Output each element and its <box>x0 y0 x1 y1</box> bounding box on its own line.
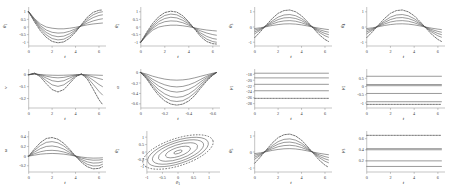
plot-canvas-p32: -1-0.500.5110.50-0.5-1 <box>112 124 226 188</box>
y-tick-label: -0.6 <box>131 101 138 106</box>
x-tick-label: 2 <box>389 175 391 180</box>
x-tick-label: 4 <box>300 49 303 54</box>
data-series-line <box>29 153 103 158</box>
y-tick-label: -0.5 <box>357 92 364 97</box>
y-tick-label: 0 <box>250 150 252 155</box>
y-tick-label: 1 <box>250 9 252 14</box>
plot-panel-p11: 024610.50-0.5-1θ1t <box>0 0 112 62</box>
x-tick-label: 1 <box>208 175 210 180</box>
x-axis-label: t <box>281 116 301 121</box>
x-tick-label: 6 <box>324 111 326 116</box>
x-tick-label: 0 <box>140 111 142 116</box>
x-axis-label: t <box>281 54 301 59</box>
plot-panel-p33: 024610-1θ5t <box>226 124 338 188</box>
x-tick-label: -0.6 <box>209 111 216 116</box>
x-tick-label: 6 <box>437 111 439 116</box>
x-tick-label: -1 <box>145 175 149 180</box>
x-tick-label: 4 <box>300 111 303 116</box>
x-tick-label: 6 <box>324 175 326 180</box>
y-tick-label: -28 <box>246 101 252 106</box>
plot-canvas-p11: 024610.50-0.5-1 <box>0 0 112 62</box>
y-tick-label: -1 <box>135 40 139 45</box>
x-tick-label: 2 <box>277 49 279 54</box>
y-tick-label: -1 <box>248 166 252 171</box>
y-tick-label: 0 <box>142 150 144 155</box>
y-axis-label: θ1 <box>2 18 8 34</box>
x-tick-label: 4 <box>413 49 416 54</box>
y-tick-label: 0.2 <box>359 158 364 163</box>
y-tick-label: 0.5 <box>359 76 364 81</box>
y-tick-label: 0.4 <box>359 147 365 152</box>
y-axis-label: μ2 <box>340 80 346 96</box>
x-tick-label: 0 <box>366 111 368 116</box>
y-axis-label: ω <box>3 143 8 159</box>
plot-panel-p31: 02460.40.20-0.2ωt <box>0 124 112 188</box>
y-tick-label: -1 <box>248 40 252 45</box>
x-tick-label: 4 <box>74 175 77 180</box>
plot-panel-p12: 024610.50-0.5-1θ2t <box>112 0 226 62</box>
y-tick-label: 0.5 <box>139 142 144 147</box>
x-axis-label: t <box>394 116 414 121</box>
x-axis-label: θ1 <box>168 180 188 186</box>
y-tick-label: -0.4 <box>131 91 139 96</box>
y-tick-label: -0.5 <box>131 32 138 37</box>
plot-canvas-p22: 0-0.2-0.4-0.60-0.2-0.4-0.6 <box>112 62 226 124</box>
x-tick-label: 0 <box>28 111 30 116</box>
plot-canvas-p12: 024610.50-0.5-1 <box>112 0 226 62</box>
y-tick-label: 1 <box>136 9 138 14</box>
x-tick-label: 2 <box>389 49 391 54</box>
y-tick-label: 1 <box>142 135 144 140</box>
y-axis-label: θ5 <box>228 143 234 159</box>
y-tick-label: -18 <box>246 72 252 77</box>
plot-canvas-p23: 0246-18-20-22-24-26-28 <box>226 62 338 124</box>
y-tick-label: -1 <box>141 164 145 169</box>
x-axis-label: t <box>394 180 414 185</box>
y-tick-label: -1 <box>360 40 364 45</box>
y-tick-label: 0 <box>250 25 252 30</box>
x-tick-label: 0 <box>28 49 30 54</box>
y-tick-label: -1 <box>22 40 26 45</box>
x-tick-label: 6 <box>212 49 214 54</box>
plot-canvas-p21: 02460-0.1-0.2 <box>0 62 112 124</box>
data-series-line <box>29 150 103 160</box>
y-axis-label: μ3 <box>340 143 346 159</box>
y-tick-label: -0.2 <box>19 96 26 101</box>
x-tick-label: 0.5 <box>191 175 196 180</box>
plot-canvas-p14: 024610-1 <box>338 0 451 62</box>
x-tick-label: 2 <box>277 175 279 180</box>
x-tick-label: 0 <box>28 175 30 180</box>
y-axis-label: θ3 <box>228 18 234 34</box>
x-tick-label: 4 <box>74 111 77 116</box>
y-tick-label: -1 <box>360 101 364 106</box>
x-tick-label: 6 <box>98 175 100 180</box>
x-tick-label: -0.4 <box>185 111 193 116</box>
x-axis-label: t <box>55 116 75 121</box>
x-tick-label: 0 <box>177 175 179 180</box>
x-tick-label: 4 <box>413 111 416 116</box>
plot-panel-p23: 0246-18-20-22-24-26-28μ1t <box>226 62 338 124</box>
x-tick-label: 2 <box>277 111 279 116</box>
y-tick-label: 0 <box>24 72 26 77</box>
y-tick-label: -26 <box>246 95 252 100</box>
plot-panel-p24: 02460.50-0.5-1μ2t <box>338 62 451 124</box>
y-tick-label: -20 <box>246 78 252 83</box>
x-tick-label: 6 <box>324 49 326 54</box>
data-series-line <box>29 138 103 169</box>
x-axis-label: t <box>168 116 188 121</box>
y-tick-label: 1 <box>250 134 252 139</box>
y-tick-label: 0.4 <box>21 134 27 139</box>
plot-panel-p34: 02460.60.40.2μ3t <box>338 124 451 188</box>
y-axis-label: a <box>115 80 120 96</box>
x-tick-label: 2 <box>51 49 53 54</box>
x-tick-label: -0.2 <box>161 111 168 116</box>
plot-canvas-p31: 02460.40.20-0.2 <box>0 124 112 188</box>
plot-panel-p14: 024610-1θ4t <box>338 0 451 62</box>
y-tick-label: 0.5 <box>21 17 26 22</box>
x-tick-label: 4 <box>300 175 303 180</box>
phase-orbit <box>156 139 199 165</box>
phase-orbit <box>164 144 192 161</box>
y-tick-label: 0 <box>24 154 26 159</box>
x-tick-label: 2 <box>51 111 53 116</box>
y-tick-label: 0.2 <box>21 144 26 149</box>
y-tick-label: -24 <box>246 89 252 94</box>
